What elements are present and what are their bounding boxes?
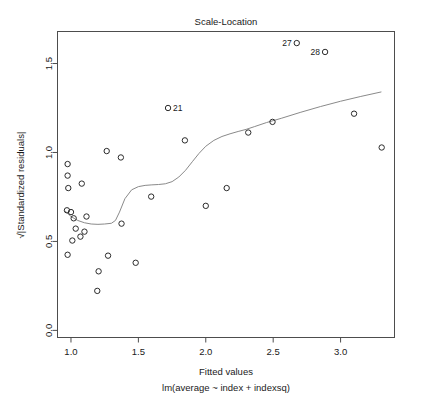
lowess-smooth-line xyxy=(65,92,381,224)
data-points-layer xyxy=(64,40,384,293)
data-point xyxy=(224,185,229,190)
data-point xyxy=(246,130,251,135)
data-point xyxy=(133,260,138,265)
y-axis-label-group: √|Standardized residuals| xyxy=(15,132,26,239)
y-axis-label: √|Standardized residuals| xyxy=(15,132,26,239)
data-point xyxy=(65,173,70,178)
y-tick-label: 1.5 xyxy=(43,57,54,70)
data-point-labels: 212728 xyxy=(173,38,320,113)
x-axis-ticks: 1.01.52.02.53.0 xyxy=(64,338,347,357)
data-point xyxy=(148,194,153,199)
smooth-curve-group xyxy=(65,92,381,224)
data-point xyxy=(322,49,327,54)
plot-canvas: Scale-Location 1.01.52.02.53.0 0.00.51.0… xyxy=(0,0,425,408)
data-point xyxy=(165,105,170,110)
data-point xyxy=(84,214,89,219)
data-point xyxy=(119,221,124,226)
data-point-label: 27 xyxy=(282,38,292,48)
data-point xyxy=(294,40,299,45)
y-tick-label: 0.5 xyxy=(43,235,54,248)
data-point xyxy=(182,138,187,143)
plot-title-group: Scale-Location xyxy=(195,16,258,27)
data-point-label: 21 xyxy=(173,103,183,113)
x-tick-label: 1.0 xyxy=(64,346,77,357)
data-point xyxy=(78,234,83,239)
y-tick-label: 0.0 xyxy=(43,324,54,337)
data-point-label: 28 xyxy=(311,47,321,57)
data-point xyxy=(70,238,75,243)
data-point xyxy=(379,145,384,150)
x-tick-label: 3.0 xyxy=(334,346,347,357)
data-point xyxy=(203,203,208,208)
data-point xyxy=(351,111,356,116)
data-point xyxy=(65,161,70,166)
x-tick-label: 2.5 xyxy=(267,346,280,357)
plot-title: Scale-Location xyxy=(195,16,258,27)
x-axis-sublabel: lm(average ~ index + indexsq) xyxy=(162,382,290,393)
data-point xyxy=(79,181,84,186)
data-point xyxy=(65,252,70,257)
plot-frame xyxy=(58,32,395,338)
scale-location-plot: Scale-Location 1.01.52.02.53.0 0.00.51.0… xyxy=(0,0,425,408)
data-point xyxy=(96,269,101,274)
data-point xyxy=(82,229,87,234)
data-point xyxy=(73,226,78,231)
x-tick-label: 1.5 xyxy=(132,346,145,357)
data-point xyxy=(104,148,109,153)
x-tick-label: 2.0 xyxy=(199,346,212,357)
data-point xyxy=(66,185,71,190)
x-axis-label: Fitted values xyxy=(199,366,253,377)
data-point xyxy=(118,155,123,160)
x-axis-label-group: Fitted values lm(average ~ index + index… xyxy=(162,366,290,393)
data-point xyxy=(105,253,110,258)
y-axis-ticks: 0.00.51.01.5 xyxy=(43,57,58,337)
data-point xyxy=(95,288,100,293)
y-tick-label: 1.0 xyxy=(43,146,54,159)
